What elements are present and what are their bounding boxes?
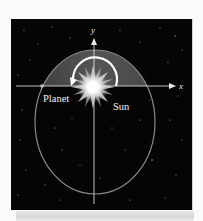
y-axis-arrow-icon xyxy=(91,38,97,45)
y-axis-label: y xyxy=(90,25,95,35)
orbit-diagram: Planet Sun x y xyxy=(0,0,203,221)
sun-label: Sun xyxy=(113,101,130,112)
x-axis-label: x xyxy=(178,81,183,91)
planet-marker xyxy=(40,84,44,88)
planet-label: Planet xyxy=(43,93,69,104)
x-axis-arrow-icon xyxy=(169,83,176,89)
